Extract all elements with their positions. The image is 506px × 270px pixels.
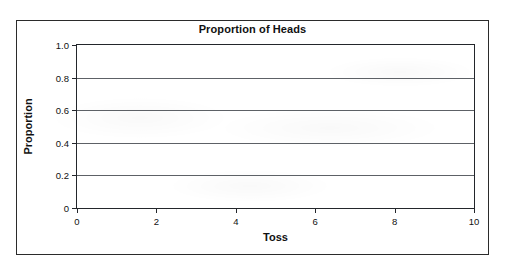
plot-area: 00.20.40.60.81.0 0246810 xyxy=(76,44,475,209)
chart-title: Proportion of Heads xyxy=(16,23,489,35)
x-tick-label: 4 xyxy=(233,216,238,227)
y-tick-label: 1.0 xyxy=(31,40,69,51)
x-tick-label: 10 xyxy=(469,216,480,227)
x-tick-mark xyxy=(236,208,237,213)
y-tick-label: 0.2 xyxy=(31,170,69,181)
y-tick-label: 0.6 xyxy=(31,105,69,116)
y-axis-title: Proportion xyxy=(22,44,36,209)
x-tick-label: 8 xyxy=(392,216,397,227)
x-axis: 0246810 xyxy=(77,45,474,208)
x-tick-label: 2 xyxy=(154,216,159,227)
x-tick-label: 0 xyxy=(74,216,79,227)
x-tick-mark xyxy=(315,208,316,213)
x-axis-title: Toss xyxy=(76,231,475,243)
x-tick-label: 6 xyxy=(313,216,318,227)
x-tick-mark xyxy=(77,208,78,213)
y-tick-label: 0.8 xyxy=(31,72,69,83)
scanned-page-canvas: Proportion of Heads 00.20.40.60.81.0 024… xyxy=(0,0,506,270)
x-tick-mark xyxy=(156,208,157,213)
y-tick-label: 0 xyxy=(31,203,69,214)
x-tick-mark xyxy=(395,208,396,213)
y-tick-label: 0.4 xyxy=(31,137,69,148)
x-tick-mark xyxy=(474,208,475,213)
